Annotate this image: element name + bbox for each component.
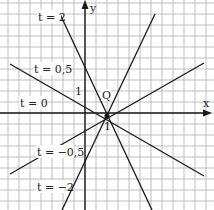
point-q [104,113,109,118]
x-axis-arrow-icon [203,110,212,117]
y-axis-arrow-icon [82,0,89,9]
label-t-2: t = 2 [38,11,66,24]
label-t-0-5: t = 0,5 [34,63,72,76]
label-t-minus-0-5: t = −0,5 [37,146,84,159]
label-t-0: t = 0 [20,97,48,110]
y-axis-label: y [89,2,97,15]
line-t-minus-2 [62,14,155,210]
coordinate-diagram: t = 2 t = 0,5 t = 0 t = −0,5 t = −2 y x … [0,0,214,210]
label-t-minus-2: t = −2 [37,181,74,194]
x-unit-label: 1 [104,120,111,133]
y-unit-label: 1 [75,85,82,98]
x-axis-label: x [203,97,210,110]
point-q-label: Q [102,89,111,102]
y-axis [82,0,89,210]
